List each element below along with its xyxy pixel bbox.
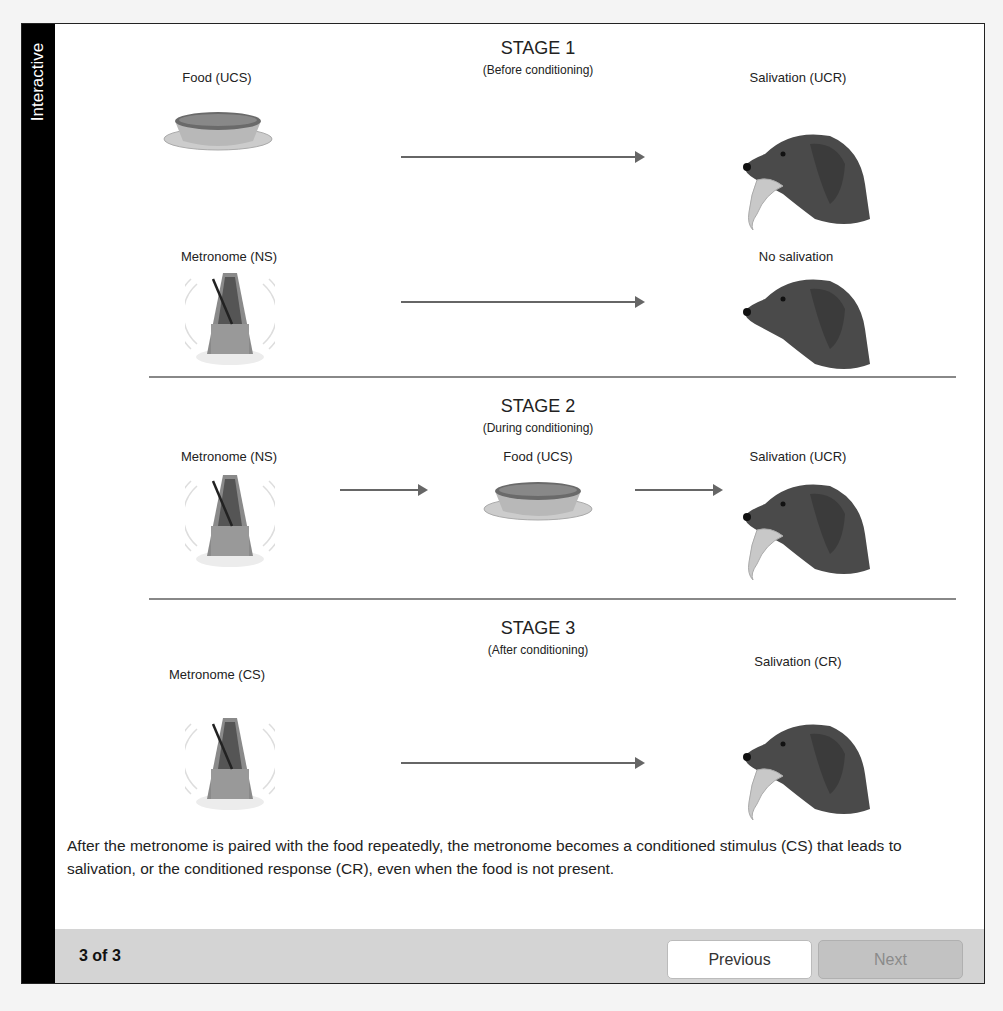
stage-1-title: STAGE 1 bbox=[501, 38, 576, 59]
arrow-right-icon bbox=[340, 489, 426, 491]
stage-2-metronome-label: Metronome (NS) bbox=[181, 449, 277, 464]
stage-2-salivation-label: Salivation (UCR) bbox=[750, 449, 847, 464]
metronome-icon bbox=[185, 269, 275, 369]
stage-1-food-label: Food (UCS) bbox=[182, 70, 251, 85]
sidebar-label: Interactive bbox=[28, 43, 48, 121]
stage-1-no-salivation-label: No salivation bbox=[759, 249, 833, 264]
stage-divider bbox=[149, 598, 956, 600]
dog-head-icon bbox=[735, 124, 875, 234]
dog-head-icon bbox=[735, 714, 875, 824]
food-bowl-icon bbox=[163, 109, 273, 154]
previous-button[interactable]: Previous bbox=[667, 940, 812, 979]
stage-3-metronome-label: Metronome (CS) bbox=[169, 667, 265, 682]
arrow-right-icon bbox=[401, 301, 643, 303]
pagination-footer: 3 of 3 Previous Next bbox=[55, 929, 984, 983]
arrow-right-icon bbox=[401, 156, 643, 158]
metronome-icon bbox=[185, 714, 275, 814]
page-indicator: 3 of 3 bbox=[79, 947, 121, 965]
next-button[interactable]: Next bbox=[818, 940, 963, 979]
stage-1-subtitle: (Before conditioning) bbox=[483, 63, 594, 77]
stage-3-subtitle: (After conditioning) bbox=[488, 643, 589, 657]
stage-1-salivation-label: Salivation (UCR) bbox=[750, 70, 847, 85]
diagram-content: STAGE 1 (Before conditioning) Food (UCS)… bbox=[55, 24, 984, 929]
stage-divider bbox=[149, 376, 956, 378]
arrow-right-icon bbox=[401, 762, 643, 764]
metronome-icon bbox=[185, 471, 275, 571]
stage-2-title: STAGE 2 bbox=[501, 396, 576, 417]
interactive-sidebar: Interactive bbox=[22, 24, 55, 983]
food-bowl-icon bbox=[483, 479, 593, 524]
stage-3-salivation-label: Salivation (CR) bbox=[754, 654, 841, 669]
interactive-panel: Interactive STAGE 1 (Before conditioning… bbox=[21, 23, 985, 984]
stage-2-food-label: Food (UCS) bbox=[503, 449, 572, 464]
stage-1-metronome-label: Metronome (NS) bbox=[181, 249, 277, 264]
arrow-right-icon bbox=[635, 489, 721, 491]
dog-head-icon bbox=[735, 269, 875, 379]
stage-2-subtitle: (During conditioning) bbox=[483, 421, 594, 435]
caption-text: After the metronome is paired with the f… bbox=[67, 834, 967, 880]
dog-head-icon bbox=[735, 474, 875, 584]
stage-3-title: STAGE 3 bbox=[501, 618, 576, 639]
